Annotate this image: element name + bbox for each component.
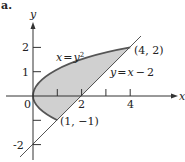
figure-label: a. (1, 0, 12, 12)
x-axis-label: x (179, 90, 185, 103)
point-label-1-neg1: (1, −1) (60, 115, 99, 128)
y-tick-label-2: 2 (22, 41, 29, 54)
region-diagram: a. y x 0 2 4 2 1 -2 x=y2 y=x−2 (4, 2) (1… (0, 0, 185, 162)
y-axis-label: y (29, 8, 37, 21)
y-axis-arrow-icon (31, 22, 36, 29)
x-axis-arrow-icon (171, 94, 178, 99)
x-tick-label-2: 2 (78, 98, 85, 111)
x-tick-label-4: 4 (127, 98, 134, 111)
y-tick-label-1: 1 (22, 66, 29, 79)
x-tick-label-0: 0 (24, 98, 31, 111)
y-tick-label-neg2: -2 (13, 139, 24, 152)
line-label: y=x−2 (109, 66, 154, 79)
point-label-4-2: (4, 2) (134, 44, 164, 57)
